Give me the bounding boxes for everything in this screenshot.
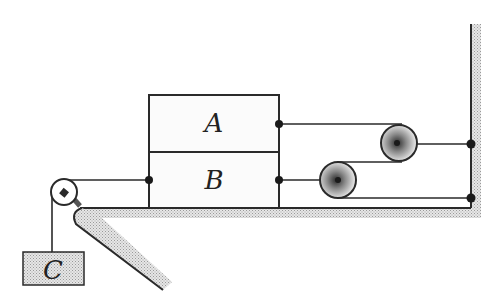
attach-b-right — [275, 176, 283, 184]
block-a: A — [149, 95, 279, 152]
upper-right-pulley — [381, 125, 417, 161]
block-a-label: A — [203, 108, 224, 138]
attach-wall-lower — [467, 194, 476, 203]
left-pulley — [51, 179, 80, 206]
attach-b-left — [145, 176, 153, 184]
attach-wall-upper — [467, 140, 476, 149]
block-c: C — [23, 252, 84, 285]
block-c-label: C — [43, 255, 63, 285]
attach-a-right — [275, 120, 283, 128]
block-b: B — [149, 152, 279, 208]
incline-support — [74, 208, 172, 290]
right-wall — [471, 24, 481, 218]
lower-right-pulley — [320, 162, 356, 198]
pulley-diagram: A B C — [0, 0, 504, 308]
table-surface — [80, 208, 480, 218]
block-b-label: B — [203, 165, 223, 195]
